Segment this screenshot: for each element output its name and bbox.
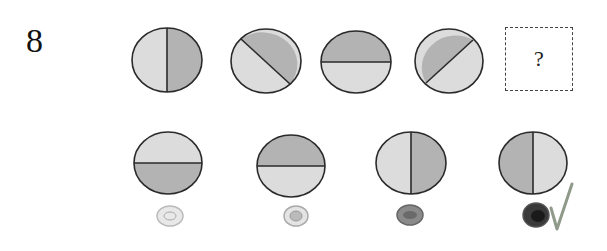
missing-figure-box: ? [505,27,573,91]
option-3-circle[interactable] [376,132,446,194]
sequence-circle-3 [321,31,391,93]
option-1-circle[interactable] [134,132,202,194]
option-2-circle[interactable] [257,135,325,197]
option-2-bubble[interactable] [284,206,308,226]
option-1-bubble[interactable] [157,206,183,226]
option-4-bubble[interactable] [523,203,549,227]
sequence-circle-1 [132,28,202,92]
checkmark-icon [551,184,572,229]
sequence-circle-2 [231,29,301,93]
option-4-circle[interactable] [499,132,567,194]
option-3-bubble[interactable] [397,205,423,225]
question-mark: ? [534,46,544,72]
sequence-circle-4 [415,29,483,93]
